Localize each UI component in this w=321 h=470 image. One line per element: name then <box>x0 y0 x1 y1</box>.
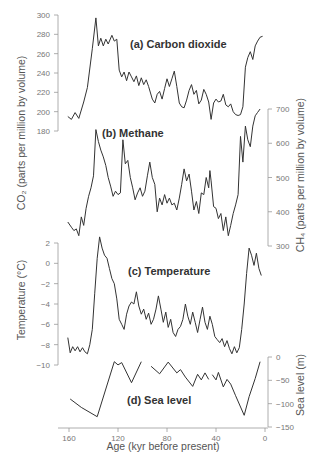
y-tick-label-ch4: 400 <box>276 208 290 217</box>
y-tick-label-ch4: 600 <box>276 139 290 148</box>
series-line-sea_level-1 <box>70 362 141 417</box>
y-tick-label-temperature: −10 <box>36 361 50 370</box>
labels-layer: (a) Carbon dioxide (b) Methane (c) Tempe… <box>15 38 306 452</box>
y-tick-label-co2: 280 <box>37 30 51 39</box>
y-tick-label-temperature: −4 <box>41 300 51 309</box>
y-axis-title-temperature: Temperature (°C) <box>15 260 27 341</box>
y-tick-label-sea_level: 0 <box>276 353 281 362</box>
y-tick-label-sea_level: −150 <box>276 423 295 432</box>
y-axis-title-ch4: CH₄ (parts per million by volume) <box>294 98 306 252</box>
y-tick-label-ch4: 700 <box>276 105 290 114</box>
series-line-ch4 <box>68 109 260 236</box>
y-tick-label-temperature: 0 <box>46 259 51 268</box>
y-tick-label-ch4: 500 <box>276 174 290 183</box>
series-line-co2 <box>68 18 263 120</box>
y-tick-label-co2: 200 <box>37 108 51 117</box>
y-tick-label-temperature: −8 <box>41 341 51 350</box>
y-tick-label-sea_level: −100 <box>276 400 295 409</box>
y-tick-label-sea_level: −50 <box>276 376 290 385</box>
y-tick-label-co2: 220 <box>37 88 51 97</box>
series-layer <box>68 18 263 417</box>
series-line-sea_level-3 <box>212 362 260 416</box>
x-axis-title: Age (kyr before present) <box>106 440 219 452</box>
y-axis-title-co2: CO₂ (parts per million by volume) <box>15 56 27 211</box>
series-line-sea_level-2 <box>151 362 209 386</box>
panel-title-sea-level: (d) Sea level <box>127 394 191 406</box>
panel-title-co2: (a) Carbon dioxide <box>130 38 227 50</box>
axes-layer: 180200220240260280300300400500600700−10−… <box>36 11 294 443</box>
y-tick-label-co2: 260 <box>37 50 51 59</box>
y-tick-label-co2: 180 <box>37 127 51 136</box>
y-tick-label-temperature: 2 <box>46 239 51 248</box>
x-tick-label: 160 <box>62 434 76 443</box>
paleoclimate-chart: 180200220240260280300300400500600700−10−… <box>0 0 321 470</box>
panel-title-ch4: (b) Methane <box>102 127 164 139</box>
x-tick-label: 0 <box>263 434 268 443</box>
y-tick-label-co2: 300 <box>37 11 51 20</box>
panel-title-temperature: (c) Temperature <box>128 265 210 277</box>
y-tick-label-temperature: −6 <box>41 320 51 329</box>
y-tick-label-co2: 240 <box>37 69 51 78</box>
y-tick-label-temperature: −2 <box>41 280 51 289</box>
series-line-temperature <box>68 237 261 354</box>
y-tick-label-ch4: 300 <box>276 242 290 251</box>
y-axis-title-sea-level: Sea level (m) <box>294 354 306 416</box>
